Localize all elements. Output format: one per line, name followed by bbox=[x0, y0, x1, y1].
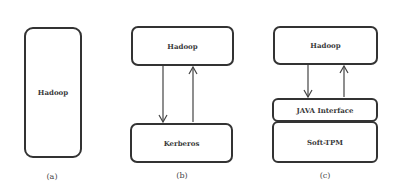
arrow-up-kerberos-to-hadoop bbox=[189, 67, 197, 122]
arrow-down-hadoop-to-kerberos bbox=[159, 66, 167, 122]
arrow-down-hadoop-to-java bbox=[304, 65, 312, 97]
arrow-up-java-to-hadoop bbox=[340, 66, 348, 97]
arrows-layer bbox=[0, 0, 401, 194]
